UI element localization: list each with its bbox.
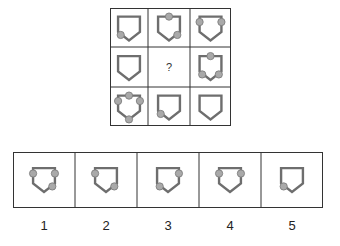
dot-top: [125, 92, 132, 99]
option-5: [280, 168, 303, 192]
option-3: [156, 168, 182, 192]
option-2: [91, 168, 117, 192]
dot-bottom-left: [199, 71, 206, 78]
option-1: [29, 168, 58, 192]
dot-right: [136, 97, 143, 104]
matrix-cell-r0c0: [117, 17, 140, 41]
option-label-3[interactable]: 3: [137, 218, 199, 233]
dot-right: [237, 170, 244, 177]
matrix-cell-r2c1: [157, 96, 180, 120]
dot-left: [91, 170, 98, 177]
dot-bottom-right: [111, 183, 118, 190]
dot-bottom-right: [49, 183, 56, 190]
dot-left: [114, 97, 121, 104]
matrix-cell-r0c2: [196, 17, 225, 41]
option-label-2[interactable]: 2: [75, 218, 137, 233]
matrix-cell-r1c2: [199, 52, 223, 79]
dot-bottom-left: [117, 31, 124, 38]
options-grid: [13, 152, 323, 208]
option-label-1[interactable]: 1: [13, 218, 75, 233]
dot-bottom-right: [174, 31, 181, 38]
option-4: [215, 168, 244, 192]
dot-bottom-left: [157, 110, 164, 117]
matrix-cell-r2c0: [114, 92, 143, 123]
matrix-cell-r1c0: [118, 56, 140, 80]
shield-shape: [200, 96, 222, 120]
dot-right: [51, 170, 58, 177]
matrix-cell-r2c2: [200, 96, 222, 120]
dot-left: [215, 170, 222, 177]
missing-cell-question-mark: ?: [166, 61, 172, 73]
answer-options: [13, 152, 323, 208]
shield-shape: [118, 56, 140, 80]
dot-top: [207, 52, 214, 59]
option-label-5[interactable]: 5: [261, 218, 323, 233]
option-label-4[interactable]: 4: [199, 218, 261, 233]
dot-left: [196, 18, 203, 25]
dot-bottom-left: [156, 183, 163, 190]
dot-left: [29, 170, 36, 177]
options-border: [14, 153, 323, 208]
dot-bottom: [125, 116, 132, 123]
dot-bottom-left: [280, 183, 287, 190]
dot-bottom-right: [215, 71, 222, 78]
dot-top: [165, 13, 172, 20]
matrix-cell-r0c1: [158, 13, 181, 40]
puzzle-matrix: ?: [110, 8, 231, 126]
dot-right: [175, 170, 182, 177]
dot-right: [218, 18, 225, 25]
